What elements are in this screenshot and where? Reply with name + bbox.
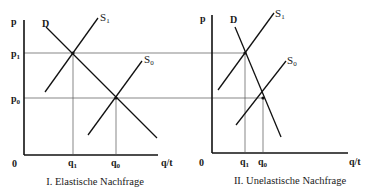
demand-curve xyxy=(46,27,157,138)
s0-label: S0 xyxy=(144,53,154,67)
q1-label: q1 xyxy=(240,156,250,169)
y-axis-label: p xyxy=(200,13,206,24)
chart-inelastic: p D S1 S0 0 q1 q0 q/t II. Unelastische N… xyxy=(199,7,361,186)
s1-label: S1 xyxy=(275,7,285,21)
chart-elastic: p D p1 p0 S1 S0 0 q1 q0 q/t I. Elastisch… xyxy=(11,11,173,187)
origin-label: 0 xyxy=(199,157,204,168)
s1-label: S1 xyxy=(100,11,110,25)
equilibrium-point-1 xyxy=(71,51,74,54)
supply-curve-s1 xyxy=(45,18,98,92)
q1-label: q1 xyxy=(68,157,78,170)
supply-curve-s0 xyxy=(236,61,286,125)
x-axis-label: q/t xyxy=(161,157,173,168)
supply-curve-s1 xyxy=(218,13,274,90)
equilibrium-point-1 xyxy=(243,51,246,54)
equilibrium-point-0 xyxy=(114,96,117,99)
x-axis-label: q/t xyxy=(349,156,361,167)
supply-demand-figure: p D p1 p0 S1 S0 0 q1 q0 q/t I. Elastisch… xyxy=(0,0,375,194)
origin-label: 0 xyxy=(12,158,17,169)
y-axis-label: p xyxy=(11,16,17,27)
demand-curve xyxy=(235,27,281,137)
s0-label: S0 xyxy=(287,54,297,68)
demand-label: D xyxy=(230,14,237,25)
chart-caption: I. Elastische Nachfrage xyxy=(46,176,144,187)
equilibrium-point-0 xyxy=(261,96,264,99)
demand-label: D xyxy=(42,18,49,29)
p0-label: p0 xyxy=(11,93,21,106)
chart-caption: II. Unelastische Nachfrage xyxy=(234,175,347,186)
q0-label: q0 xyxy=(258,156,268,169)
q0-label: q0 xyxy=(111,157,121,170)
p1-label: p1 xyxy=(11,48,21,61)
